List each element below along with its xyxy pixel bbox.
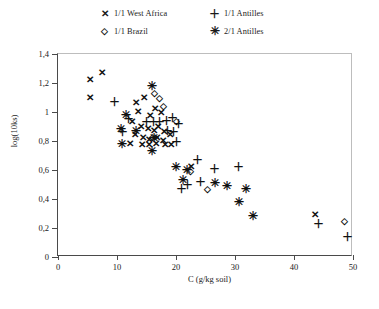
y-tick-label: 0,8 — [38, 136, 49, 146]
y-tick-label: 0,2 — [38, 223, 49, 233]
plus-data-point: ＋ — [209, 163, 220, 174]
y-tick-label: 0 — [45, 252, 49, 262]
x-tick — [294, 255, 295, 260]
legend-label-brazil: 1/1 Brazil — [114, 27, 206, 36]
plus-marker-icon: ＋ — [206, 6, 224, 20]
y-tick-label: 0,4 — [38, 194, 49, 204]
cross-data-point: ✕ — [86, 93, 94, 103]
plot-area: 00,20,40,60,811,21,4 01020304050 ✕✕✕✕✕✕✕… — [57, 53, 352, 256]
cross-data-point: ✕ — [140, 93, 148, 103]
plus-data-point: ＋ — [192, 154, 203, 165]
legend-label-west-africa: 1/1 West Africa — [114, 9, 206, 18]
y-tick-label: 1,2 — [38, 78, 49, 88]
star-data-point: ✳ — [178, 174, 188, 186]
diamond-data-point: ◇ — [173, 116, 180, 125]
legend-label-antilles-21: 2/1 Antilles — [224, 27, 306, 36]
cross-data-point: ✕ — [86, 75, 94, 85]
star-data-point: ✳ — [131, 125, 141, 137]
plus-data-point: ＋ — [109, 96, 120, 107]
x-tick-label: 50 — [349, 262, 358, 272]
y-tick-label: 1 — [45, 107, 49, 117]
cross-marker-icon: ✕ — [96, 6, 114, 20]
x-tick — [235, 255, 236, 260]
star-data-point: ✳ — [117, 138, 127, 150]
data-points-layer: ✕✕✕✕✕✕✕✕✕✕✕✕✕✕✕✕✕✕✕✕✕✕✕✕✕✕✕✕✕＋＋＋＋＋＋＋＋＋＋＋… — [58, 54, 351, 255]
scatter-plot-figure: ✕ 1/1 West Africa ＋ 1/1 Antilles ◇ 1/1 B… — [0, 0, 379, 309]
diamond-data-point: ◇ — [160, 102, 167, 111]
star-data-point: ✳ — [248, 210, 258, 222]
star-data-point: ✳ — [147, 80, 157, 92]
y-axis-title: log(10ks) — [9, 115, 19, 148]
diamond-data-point: ◇ — [341, 216, 348, 225]
star-data-point: ✳ — [171, 161, 181, 173]
cross-data-point: ✕ — [126, 139, 134, 149]
x-tick-label: 30 — [231, 262, 240, 272]
x-axis-title: C (g/kg soil) — [0, 274, 379, 284]
star-data-point: ✳ — [147, 145, 157, 157]
x-tick-label: 10 — [113, 262, 122, 272]
plus-data-point: ＋ — [233, 162, 244, 173]
diamond-marker-icon: ◇ — [96, 24, 114, 38]
y-tick-label: 0,6 — [38, 165, 49, 175]
x-tick — [176, 255, 177, 260]
legend-label-antilles-11: 1/1 Antilles — [224, 9, 306, 18]
plus-data-point: ＋ — [313, 218, 324, 229]
star-data-point: ✳ — [210, 177, 220, 189]
y-tick-label: 1,4 — [38, 49, 49, 59]
star-data-point: ✳ — [121, 109, 131, 121]
star-data-point: ✳ — [116, 123, 126, 135]
plus-data-point: ＋ — [342, 231, 353, 242]
x-tick-label: 40 — [290, 262, 299, 272]
star-data-point: ✳ — [234, 196, 244, 208]
x-tick — [58, 255, 59, 260]
chart-legend: ✕ 1/1 West Africa ＋ 1/1 Antilles ◇ 1/1 B… — [96, 4, 306, 40]
x-tick — [353, 255, 354, 260]
x-tick-label: 20 — [172, 262, 181, 272]
plus-data-point: ＋ — [171, 137, 182, 148]
x-tick — [117, 255, 118, 260]
star-data-point: ✳ — [222, 180, 232, 192]
star-data-point: ✳ — [241, 183, 251, 195]
cross-data-point: ✕ — [98, 68, 106, 78]
star-marker-icon: ✳ — [206, 24, 224, 38]
x-tick-label: 0 — [56, 262, 60, 272]
star-data-point: ✳ — [149, 132, 159, 144]
